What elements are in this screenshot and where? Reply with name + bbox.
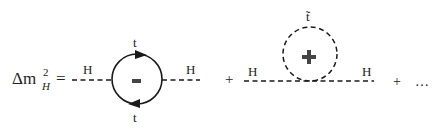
higgs-label-left-2: H xyxy=(248,64,257,79)
arrow-bottom-icon xyxy=(128,99,140,108)
top-quark-label-lower: t xyxy=(133,110,137,125)
lhs-expression: Δm 2 H = xyxy=(12,66,66,92)
plus-sign-1: + xyxy=(225,71,233,87)
diagram-svg: Δm 2 H = H H t t + H H t̃ + … xyxy=(0,0,442,131)
top-quark-label-upper: t xyxy=(133,35,137,50)
plus-sign-2: + xyxy=(393,74,401,89)
top-quark-loop-diagram: H H t t xyxy=(72,35,200,125)
higgs-label-right-2: H xyxy=(362,64,371,79)
plus-sign-v-icon xyxy=(307,50,311,64)
delta-m: Δm xyxy=(12,69,36,88)
superscript-2: 2 xyxy=(43,66,49,78)
arrow-top-icon xyxy=(135,50,147,59)
higgs-label-right-1: H xyxy=(186,62,195,77)
higgs-label-left-1: H xyxy=(83,62,92,77)
stop-loop-diagram: H H t̃ xyxy=(244,9,374,81)
feynman-diagram-equation: Δm 2 H = H H t t + H H t̃ + … xyxy=(0,0,442,131)
subscript-h: H xyxy=(41,80,51,92)
stop-label: t̃ xyxy=(306,9,311,24)
equals-sign: = xyxy=(56,69,66,88)
minus-sign-icon xyxy=(132,79,141,83)
ellipsis: … xyxy=(415,74,429,89)
